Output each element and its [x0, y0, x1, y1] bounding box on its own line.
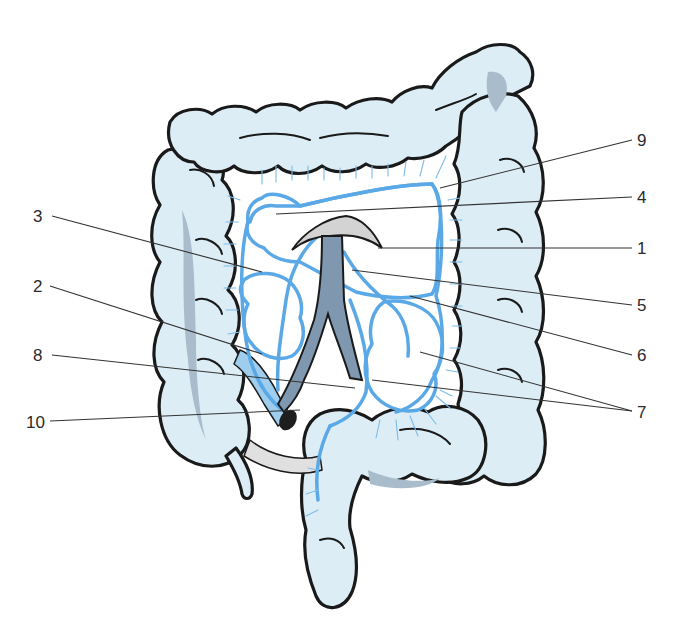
label-3: 3 [33, 207, 42, 226]
label-2: 2 [33, 277, 42, 296]
label-1: 1 [637, 239, 646, 258]
sigmoid-colon [302, 406, 486, 607]
label-5: 5 [637, 296, 646, 315]
right-colic-mesentery [241, 273, 304, 358]
label-6: 6 [637, 346, 646, 365]
label-8: 8 [33, 346, 42, 365]
label-9: 9 [637, 131, 646, 150]
label-10: 10 [26, 413, 45, 432]
label-4: 4 [637, 188, 646, 207]
left-colic-mesentery [365, 301, 442, 411]
colon-anatomy-diagram: 3 2 8 10 9 4 1 5 6 7 [0, 0, 677, 642]
label-7: 7 [637, 403, 646, 422]
